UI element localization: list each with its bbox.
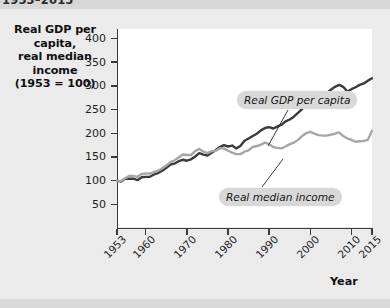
figure-header-band: 1953–2015 bbox=[0, 0, 390, 9]
y-tick-label-text: 200 bbox=[66, 127, 106, 140]
y-tick-label-text: 400 bbox=[66, 32, 106, 45]
annotation-real-median-income: Real median income bbox=[219, 188, 342, 206]
x-tick-label: 1980 bbox=[212, 233, 239, 260]
y-tick-label: 250 bbox=[62, 103, 106, 115]
y-tick-label-text: 250 bbox=[66, 103, 106, 116]
x-tick-label: 2000 bbox=[294, 233, 321, 260]
y-tick-label: 150 bbox=[62, 150, 106, 162]
x-axis-line bbox=[117, 228, 373, 229]
annotation-real-gdp-per-capita: Real GDP per capita bbox=[237, 91, 357, 109]
y-tick bbox=[111, 85, 117, 86]
y-tick-label: 300 bbox=[62, 79, 106, 91]
y-tick-label-text: 300 bbox=[66, 79, 106, 92]
x-tick-label: 2010 bbox=[336, 233, 363, 260]
x-tick-label: 1960 bbox=[130, 233, 157, 260]
y-tick-label-text: 350 bbox=[66, 56, 106, 69]
x-tick-label: 2015 bbox=[356, 233, 383, 260]
y-tick-label: 350 bbox=[62, 56, 106, 68]
x-tick-label: 1970 bbox=[171, 233, 198, 260]
y-axis-line bbox=[117, 29, 118, 229]
x-tick-label: 1990 bbox=[253, 233, 280, 260]
y-tick bbox=[111, 109, 117, 110]
y-tick-label: 100 bbox=[62, 174, 106, 186]
y-tick bbox=[111, 133, 117, 134]
y-tick-label: 400 bbox=[62, 32, 106, 44]
x-axis-title: Year bbox=[330, 275, 358, 288]
chart-figure: Real GDP per capita, real median income … bbox=[0, 9, 390, 299]
y-tick bbox=[111, 156, 117, 157]
y-tick bbox=[111, 38, 117, 39]
y-tick-label-text: 100 bbox=[66, 174, 106, 187]
y-tick bbox=[111, 180, 117, 181]
y-tick bbox=[111, 204, 117, 205]
y-tick-label: 50 bbox=[62, 198, 106, 210]
y-tick-label-text: 150 bbox=[66, 150, 106, 163]
page-bottom-edge bbox=[0, 299, 390, 308]
y-tick bbox=[111, 61, 117, 62]
y-tick-label: 200 bbox=[62, 127, 106, 139]
y-tick-label-text: 50 bbox=[66, 198, 106, 211]
x-tick-label: 1953 bbox=[101, 233, 128, 260]
figure-title: 1953–2015 bbox=[2, 0, 74, 7]
